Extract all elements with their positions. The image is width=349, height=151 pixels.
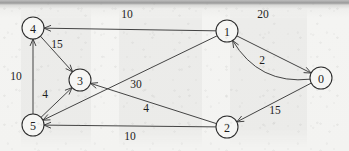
edge-weight-2-3: 4 (143, 102, 149, 114)
node-label-2: 2 (224, 121, 230, 135)
edge-weight-5-3: 4 (42, 88, 48, 100)
node-label-1: 1 (224, 25, 230, 39)
arrowhead-0-to-1 (233, 40, 239, 47)
graph-node-5[interactable]: 5 (22, 114, 44, 136)
edge-weight-1-4: 10 (121, 8, 133, 20)
edge-0-to-1 (233, 40, 310, 79)
graph-node-3[interactable]: 3 (69, 69, 91, 91)
edge-weight-0-1: 20 (257, 8, 269, 20)
edge-weight-5-4: 10 (10, 70, 22, 82)
edge-1-to-4 (44, 28, 216, 31)
node-label-3: 3 (77, 74, 83, 88)
node-label-5: 5 (30, 119, 36, 133)
node-label-4: 4 (30, 22, 36, 36)
graph-node-0[interactable]: 0 (310, 67, 332, 89)
edge-weight-1-5: 30 (130, 78, 142, 90)
graph-node-2[interactable]: 2 (216, 116, 238, 138)
edge-2-to-3 (90, 83, 216, 123)
edge-weight-2-5: 10 (124, 130, 136, 142)
edge-1-to-0 (237, 36, 311, 73)
edge-weight-0-2: 15 (269, 104, 281, 116)
edge-2-to-5 (44, 125, 216, 127)
edge-0-to-2 (237, 83, 311, 122)
edge-weight-1-0: 2 (259, 54, 265, 66)
figure-canvas: 10202151043041510 012345 (0, 0, 349, 151)
graph-node-1[interactable]: 1 (216, 20, 238, 42)
nodes-layer: 012345 (22, 17, 332, 138)
graph-node-4[interactable]: 4 (22, 17, 44, 39)
edge-weight-4-3: 15 (51, 38, 63, 50)
node-label-0: 0 (318, 72, 324, 86)
graph-drawing: 10202151043041510 012345 (0, 0, 349, 151)
